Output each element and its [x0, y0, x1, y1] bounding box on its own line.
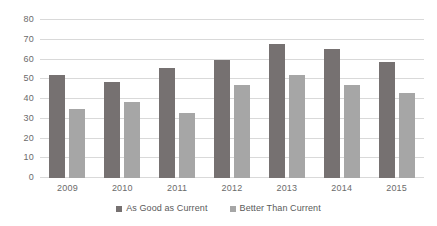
- chart-legend: As Good as CurrentBetter Than Current: [0, 204, 437, 213]
- bar-groups: [40, 20, 424, 178]
- bar-2011-series-1[interactable]: [179, 113, 195, 178]
- y-tick-label-80: 80: [8, 15, 34, 24]
- bar-group-2010: [95, 20, 150, 178]
- bar-2014-series-1[interactable]: [344, 85, 360, 178]
- y-tick-label-20: 20: [8, 134, 34, 143]
- y-tick-label-60: 60: [8, 55, 34, 64]
- x-tick-label-2012: 2012: [205, 182, 260, 196]
- bar-2011-series-0[interactable]: [159, 68, 175, 178]
- bar-group-2009: [40, 20, 95, 178]
- bar-chart: 01020304050607080 2009201020112012201320…: [0, 0, 437, 226]
- x-axis-labels: 2009201020112012201320142015: [40, 182, 424, 196]
- bar-2012-series-0[interactable]: [214, 60, 230, 179]
- y-tick-label-10: 10: [8, 153, 34, 162]
- x-tick-label-2010: 2010: [95, 182, 150, 196]
- legend-label-0: As Good as Current: [126, 204, 207, 213]
- bar-2014-series-0[interactable]: [324, 49, 340, 178]
- bar-group-2013: [259, 20, 314, 178]
- bar-group-2015: [369, 20, 424, 178]
- bar-group-2012: [205, 20, 260, 178]
- bar-2015-series-0[interactable]: [379, 62, 395, 178]
- y-tick-label-40: 40: [8, 94, 34, 103]
- x-tick-label-2013: 2013: [259, 182, 314, 196]
- bar-2009-series-1[interactable]: [69, 109, 85, 178]
- y-tick-label-0: 0: [8, 173, 34, 182]
- bar-2013-series-1[interactable]: [289, 75, 305, 178]
- bar-2009-series-0[interactable]: [49, 75, 65, 178]
- x-tick-label-2015: 2015: [369, 182, 424, 196]
- y-tick-label-70: 70: [8, 35, 34, 44]
- y-tick-label-30: 30: [8, 114, 34, 123]
- plot-area: [40, 20, 424, 178]
- bar-2012-series-1[interactable]: [234, 85, 250, 178]
- legend-label-1: Better Than Current: [240, 204, 321, 213]
- bar-2015-series-1[interactable]: [399, 93, 415, 178]
- bar-2010-series-1[interactable]: [124, 102, 140, 178]
- legend-swatch-icon-0: [116, 206, 122, 212]
- y-axis-labels: 01020304050607080: [0, 20, 34, 178]
- y-tick-label-50: 50: [8, 74, 34, 83]
- bar-2013-series-0[interactable]: [269, 44, 285, 178]
- bar-2010-series-0[interactable]: [104, 82, 120, 178]
- legend-swatch-icon-1: [230, 206, 236, 212]
- x-tick-label-2011: 2011: [150, 182, 205, 196]
- legend-item-0[interactable]: As Good as Current: [116, 204, 207, 213]
- bar-group-2011: [150, 20, 205, 178]
- bar-group-2014: [314, 20, 369, 178]
- x-tick-label-2014: 2014: [314, 182, 369, 196]
- legend-item-1[interactable]: Better Than Current: [230, 204, 321, 213]
- x-tick-label-2009: 2009: [40, 182, 95, 196]
